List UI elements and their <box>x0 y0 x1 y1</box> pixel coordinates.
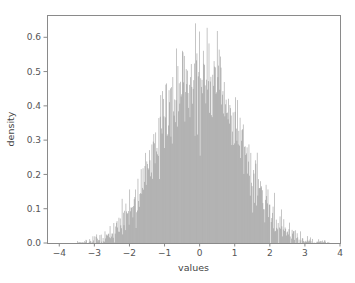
histogram-bar <box>329 242 330 243</box>
histogram-bar <box>136 228 137 243</box>
histogram-bar <box>242 130 243 243</box>
histogram-bar <box>161 128 162 243</box>
histogram-bar <box>129 189 130 243</box>
histogram-bar <box>292 230 293 243</box>
histogram-bar <box>213 86 214 243</box>
histogram-bar <box>309 241 310 243</box>
histogram-bar <box>317 242 318 243</box>
histogram-bar <box>202 80 203 243</box>
histogram-bar <box>169 90 170 243</box>
histogram-bar <box>251 153 252 243</box>
histogram-bar <box>137 211 138 244</box>
histogram-bar <box>157 148 158 243</box>
histogram-bar <box>148 168 149 243</box>
histogram-bar <box>244 147 245 243</box>
y-axis-label: density <box>5 111 16 146</box>
histogram-bar <box>197 135 198 243</box>
histogram-bar <box>275 231 276 243</box>
histogram-bar <box>321 241 322 243</box>
histogram-bar <box>134 199 135 243</box>
histogram-bar <box>306 241 307 243</box>
histogram-bar <box>165 117 166 243</box>
histogram-bar <box>191 64 192 243</box>
histogram-bar <box>217 31 218 243</box>
histogram-bar <box>107 235 108 243</box>
density-histogram-plot: −4−3−2−101234 0.00.10.20.30.40.50.6 valu… <box>0 0 355 283</box>
histogram-bar <box>324 240 325 243</box>
histogram-bar <box>193 89 194 243</box>
histogram-bar <box>253 170 254 243</box>
histogram-bar <box>248 162 249 243</box>
histogram-bar <box>204 65 205 243</box>
histogram-bar <box>304 242 305 243</box>
histogram-bar <box>310 237 311 243</box>
histogram-bar <box>212 117 213 243</box>
histogram-bar <box>124 225 125 243</box>
histogram-bar <box>286 236 287 243</box>
histogram-bar <box>285 229 286 243</box>
histogram-bar <box>259 188 260 243</box>
histogram-bar <box>97 239 98 243</box>
histogram-bar <box>249 176 250 243</box>
histogram-bar <box>198 76 199 243</box>
histogram-bar <box>108 234 109 243</box>
histogram-bar <box>145 153 146 243</box>
histogram-bar <box>82 242 83 243</box>
histogram-bar <box>258 196 259 243</box>
x-tick-label: −4 <box>53 248 67 258</box>
x-tick-label: −1 <box>158 248 171 258</box>
histogram-bar <box>171 137 172 243</box>
histogram-bar <box>121 225 122 243</box>
histogram-bar <box>160 95 161 243</box>
histogram-bar <box>209 43 210 243</box>
histogram-bar <box>117 227 118 243</box>
histogram-bar <box>265 200 266 243</box>
histogram-bar <box>135 189 136 243</box>
histogram-bar <box>127 214 128 243</box>
histogram-bar <box>177 127 178 243</box>
histogram-bar <box>245 155 246 243</box>
histogram-bar <box>175 122 176 243</box>
histogram-bar <box>306 242 307 243</box>
histogram-bar <box>216 92 217 243</box>
histogram-bar <box>128 211 129 243</box>
histogram-bar <box>318 242 319 243</box>
histogram-bar <box>112 233 113 243</box>
histogram-bar <box>86 240 87 243</box>
histogram-bar <box>188 93 189 243</box>
histogram-bar <box>93 240 94 243</box>
histogram-bar <box>139 207 140 243</box>
histogram-bar <box>209 113 210 243</box>
histogram-bar <box>114 223 115 243</box>
histogram-bar <box>130 211 131 243</box>
histogram-bar <box>303 238 304 243</box>
histogram-bar <box>261 186 262 243</box>
histogram-bar <box>114 242 115 243</box>
histogram-bar <box>159 118 160 243</box>
histogram-bar <box>266 196 267 243</box>
histogram-bar <box>277 229 278 243</box>
histogram-bar <box>140 193 141 243</box>
histogram-bar <box>264 209 265 243</box>
histogram-bar <box>258 179 259 243</box>
histogram-bar <box>312 239 313 243</box>
histogram-bar <box>128 213 129 243</box>
histogram-bar <box>271 222 272 243</box>
histogram-bar <box>162 91 163 243</box>
histogram-bar <box>138 179 139 243</box>
histogram-bar <box>238 144 239 243</box>
histogram-bar <box>136 212 137 243</box>
histogram-bar <box>142 188 143 243</box>
histogram-bar <box>133 217 134 243</box>
histogram-bar <box>294 240 295 243</box>
histogram-bar <box>200 156 201 243</box>
histogram-bar <box>125 230 126 243</box>
histogram-bar <box>92 242 93 243</box>
histogram-bar <box>173 77 174 243</box>
histogram-bar <box>246 153 247 243</box>
histogram-bar <box>108 234 109 243</box>
histogram-bar <box>118 232 119 243</box>
histogram-bar <box>239 146 240 243</box>
histogram-bar <box>241 141 242 243</box>
histogram-bar <box>273 207 274 243</box>
